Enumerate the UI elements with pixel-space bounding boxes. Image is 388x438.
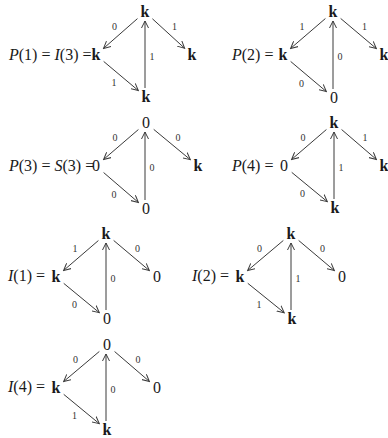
node-right: 0 [153, 380, 161, 396]
node-top: 0 [103, 337, 111, 353]
diagram-equation-label: I(4) = [8, 379, 45, 395]
node-left: k [52, 380, 61, 396]
node-bottom: k [103, 422, 112, 438]
